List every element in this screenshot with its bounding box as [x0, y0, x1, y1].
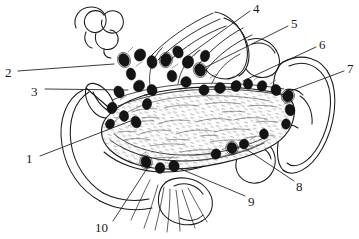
callout-label-4: 4	[253, 2, 260, 15]
callout-label-1: 1	[26, 152, 33, 165]
intestinal-coil-upper-left	[75, 7, 123, 58]
callout-label-10: 10	[95, 221, 108, 234]
leader-line-9	[176, 167, 245, 196]
callout-label-3: 3	[31, 85, 38, 98]
main-bowel-segment	[101, 87, 294, 169]
leader-line-10	[113, 167, 148, 221]
callout-label-9: 9	[248, 195, 255, 208]
callout-label-2: 2	[5, 66, 12, 79]
leader-line-7	[288, 71, 344, 92]
leader-line-2	[18, 64, 114, 71]
callout-label-7: 7	[347, 62, 354, 75]
callout-label-5: 5	[291, 17, 298, 30]
anatomical-figure: 12345678910	[0, 0, 359, 239]
callout-label-6: 6	[319, 38, 326, 51]
anatomical-drawing-canvas	[0, 0, 359, 239]
leader-line-8	[243, 147, 294, 181]
callout-label-8: 8	[296, 180, 303, 193]
